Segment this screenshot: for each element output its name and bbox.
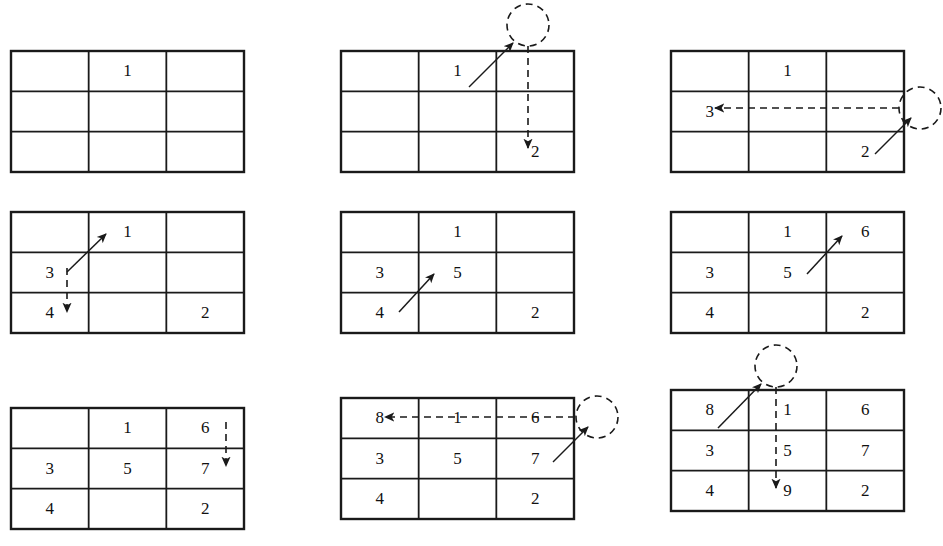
grid-cell-value: 1 (778, 401, 798, 418)
grid-cell-value: 5 (778, 442, 798, 459)
grid-cell-value: 1 (118, 62, 138, 79)
grid-cell-value: 4 (370, 490, 390, 507)
grid-cell-value: 4 (700, 304, 720, 321)
grid-drawing (601, 320, 943, 546)
solid-move-arrow (553, 427, 588, 462)
grid-cell-value: 6 (855, 223, 875, 240)
grid-cell-value: 7 (525, 450, 545, 467)
grid-cell-value: 3 (700, 103, 720, 120)
solid-move-arrow (469, 43, 513, 87)
step-8-wrap-left-to-8: 81635742 (341, 398, 574, 519)
grid-cell-value: 2 (855, 482, 875, 499)
grid-cell-value: 5 (448, 264, 468, 281)
grid-cell-value: 3 (370, 450, 390, 467)
grid-cell-value: 2 (195, 304, 215, 321)
grid-cell-value: 4 (40, 500, 60, 517)
grid-cell-value: 1 (448, 62, 468, 79)
figure-canvas: 1121321342135421635421635742816357428163… (0, 0, 943, 546)
grid-drawing (271, 328, 644, 546)
grid-cell-value: 4 (370, 304, 390, 321)
virtual-cell-circle (507, 4, 549, 46)
grid-cell-value: 4 (700, 482, 720, 499)
grid-cell-value: 7 (195, 460, 215, 477)
grid-cell-value: 5 (448, 450, 468, 467)
step-7-blocked-move-down-to-7: 1635742 (11, 408, 244, 529)
grid-cell-value: 3 (700, 264, 720, 281)
grid-cell-value: 8 (700, 401, 720, 418)
solid-move-arrow (807, 236, 842, 274)
virtual-cell-circle (755, 345, 797, 387)
grid-cell-value: 6 (195, 419, 215, 436)
step-5-place-5: 13542 (341, 212, 574, 333)
grid-cell-value: 2 (195, 500, 215, 517)
grid-cell-value: 3 (700, 442, 720, 459)
grid-cell-value: 9 (778, 482, 798, 499)
grid-cell-value: 5 (778, 264, 798, 281)
grid-cell-value: 7 (855, 442, 875, 459)
grid-cell-value: 1 (448, 409, 468, 426)
step-4-blocked-move-down-to-4: 1342 (11, 212, 244, 333)
grid-cell-value: 3 (40, 264, 60, 281)
grid-cell-value: 2 (525, 304, 545, 321)
step-9-wrap-down-to-9: 816357492 (671, 390, 904, 511)
grid-cell-value: 1 (448, 223, 468, 240)
grid-cell-value: 1 (778, 223, 798, 240)
grid-cell-value: 5 (118, 460, 138, 477)
grid-cell-value: 6 (855, 401, 875, 418)
grid-cell-value: 1 (118, 419, 138, 436)
grid-cell-value: 2 (855, 304, 875, 321)
step-6-place-6: 163542 (671, 212, 904, 333)
grid-cell-value: 1 (778, 62, 798, 79)
grid-cell-value: 8 (370, 409, 390, 426)
grid-cell-value: 4 (40, 304, 60, 321)
grid-cell-value: 3 (370, 264, 390, 281)
grid-cell-value: 2 (525, 490, 545, 507)
grid-cell-value: 6 (525, 409, 545, 426)
grid-cell-value: 3 (40, 460, 60, 477)
grid-cell-value: 1 (118, 223, 138, 240)
